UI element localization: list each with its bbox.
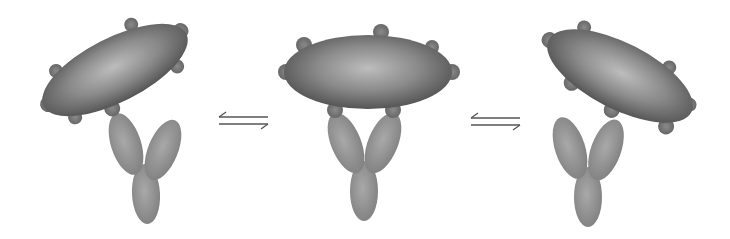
state-2 [278, 24, 460, 221]
equilibrium-arrow-icon [219, 112, 268, 129]
particle [278, 24, 460, 118]
state-1 [23, 0, 209, 225]
antibody [320, 108, 409, 221]
equilibrium-arrow-icon [471, 113, 520, 130]
antibody [546, 113, 631, 227]
antibody [102, 109, 189, 225]
equilibrium-diagram [0, 0, 730, 239]
state-3 [523, 4, 709, 227]
particle-body [284, 35, 452, 109]
